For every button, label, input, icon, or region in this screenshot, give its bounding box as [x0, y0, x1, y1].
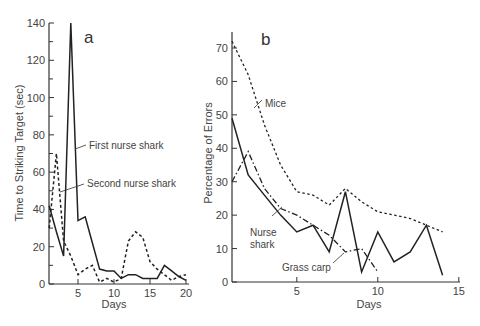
- y-tick-label: 80: [33, 129, 45, 141]
- chart-b-y-title: Percentage of Errors: [202, 102, 214, 204]
- y-tick-label: 120: [27, 54, 45, 66]
- y-tick-label: 20: [33, 241, 45, 253]
- y-tick-label: 100: [27, 92, 45, 104]
- y-tick-label: 20: [216, 209, 228, 221]
- x-tick-label: 15: [453, 285, 465, 297]
- x-tick-label: 20: [180, 287, 192, 299]
- x-tick-label: 10: [372, 285, 384, 297]
- series-first-nurse-shark: [49, 23, 186, 280]
- chart-a-x-ticks: 5101520: [75, 279, 192, 299]
- y-tick-label: 0: [222, 276, 228, 288]
- x-tick-label: 15: [144, 287, 156, 299]
- chart-b-x-title: Days: [356, 298, 382, 310]
- figure-canvas: 020406080100120140 5101520 a Days Time t…: [0, 0, 480, 326]
- leader-line-second: [60, 184, 84, 192]
- y-tick-label: 0: [39, 278, 45, 290]
- y-tick-label: 40: [216, 142, 228, 154]
- leader-line-first: [75, 145, 86, 149]
- x-tick-label: 5: [75, 287, 81, 299]
- chart-b: 010203040506070 51015 b Days Percentage …: [202, 30, 465, 310]
- y-tick-label: 140: [27, 17, 45, 29]
- label-mice: Mice: [265, 98, 287, 109]
- label-first-nurse-shark: First nurse shark: [89, 140, 164, 151]
- y-tick-label: 60: [216, 75, 228, 87]
- chart-b-y-ticks: 010203040506070: [216, 42, 237, 288]
- y-tick-label: 50: [216, 109, 228, 121]
- y-tick-label: 60: [33, 166, 45, 178]
- label-nurse: Nurse: [250, 227, 277, 238]
- y-tick-label: 40: [33, 203, 45, 215]
- chart-b-x-ticks: 51015: [294, 277, 465, 297]
- y-tick-label: 10: [216, 243, 228, 255]
- chart-a: 020406080100120140 5101520 a Days Time t…: [13, 17, 192, 310]
- label-grass-carp: Grass carp: [282, 262, 331, 273]
- series-mice: [232, 41, 443, 232]
- series-second-nurse-shark: [49, 154, 186, 283]
- chart-a-y-title: Time to Striking Target (sec): [13, 85, 25, 222]
- x-tick-label: 5: [294, 285, 300, 297]
- chart-a-panel-letter: a: [84, 28, 94, 47]
- series-grass-carp: [232, 152, 378, 272]
- label-second-nurse-shark: Second nurse shark: [87, 178, 177, 189]
- leader-line-grass-carp: [333, 253, 344, 263]
- chart-b-panel-letter: b: [261, 30, 270, 49]
- y-tick-label: 30: [216, 176, 228, 188]
- chart-a-y-ticks: 020406080100120140: [27, 17, 54, 290]
- y-tick-label: 70: [216, 42, 228, 54]
- label-shark: shark: [250, 239, 275, 250]
- chart-a-x-title: Days: [101, 298, 127, 310]
